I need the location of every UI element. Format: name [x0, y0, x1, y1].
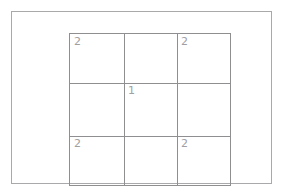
grid-3x3: 2 2 1 2 — [69, 33, 231, 186]
grid-cell-r0c1 — [124, 34, 177, 83]
outer-frame: 2 2 1 2 — [11, 11, 272, 184]
cell-label-r0c2: 2 — [181, 35, 189, 48]
grid-cell-r0c0: 2 — [70, 34, 124, 83]
diagram-canvas: 2 2 1 2 — [0, 0, 284, 195]
cell-label-r2c0: 2 — [74, 137, 82, 150]
grid-cell-r2c2: 2 — [177, 136, 230, 185]
grid-cell-r2c0: 2 — [70, 136, 124, 185]
grid-cell-r1c0 — [70, 83, 124, 136]
grid-cell-r1c2 — [177, 83, 230, 136]
cell-label-r1c1: 1 — [128, 84, 136, 97]
grid-cell-r1c1: 1 — [124, 83, 177, 136]
cell-label-r2c2: 2 — [181, 137, 189, 150]
grid-cell-r2c1 — [124, 136, 177, 185]
cell-label-r0c0: 2 — [74, 35, 82, 48]
grid-cell-r0c2: 2 — [177, 34, 230, 83]
